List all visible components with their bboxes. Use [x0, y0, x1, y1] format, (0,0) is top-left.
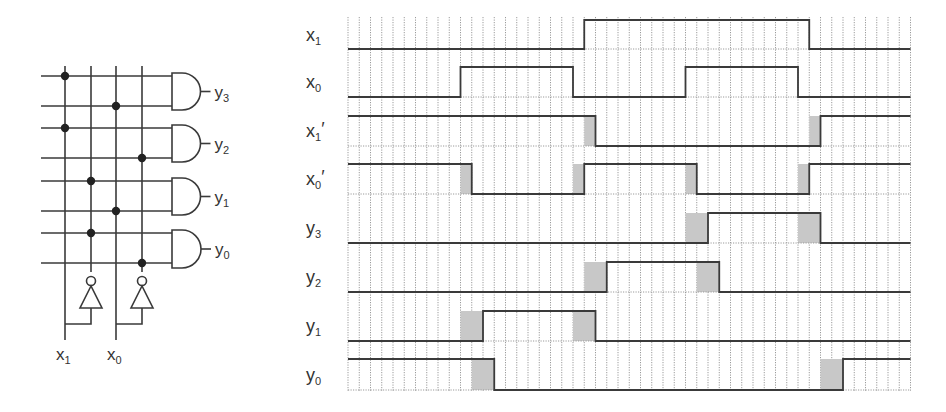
input-label-x1: x1	[56, 345, 71, 366]
decoder-circuit: x1x0y3y2y1y0	[41, 66, 230, 366]
and-gate-y0: y0	[172, 230, 230, 268]
and-gate-y3: y3	[172, 73, 229, 110]
propagation-delay-shade	[821, 359, 844, 390]
propagation-delay-shade	[798, 213, 821, 243]
propagation-delay-shade	[461, 311, 484, 341]
and-gate-y1: y1	[172, 178, 229, 215]
decoder-diagram: x1x0y3y2y1y0 x1x0x1′x0′y3y2y1y0	[0, 0, 946, 412]
and-gate-icon	[172, 73, 201, 110]
waveform-x1: x1	[306, 20, 911, 49]
junction-dot	[138, 259, 146, 267]
junction-dot	[112, 207, 120, 215]
output-label-y2: y2	[215, 135, 230, 156]
propagation-delay-shade	[584, 116, 595, 146]
propagation-delay-shade	[573, 311, 596, 341]
inverter-bubble-icon	[138, 277, 147, 286]
junction-dot	[61, 124, 69, 132]
timing-diagram: x1x0x1′x0′y3y2y1y0	[306, 17, 911, 391]
signal-label-x0-bar: x0′	[306, 167, 325, 191]
inverter-x0	[116, 277, 153, 325]
and-gate-y2: y2	[172, 125, 229, 162]
input-label-x0: x0	[107, 345, 122, 366]
signal-label-x1-bar: x1′	[306, 119, 325, 143]
and-gate-icon	[172, 230, 201, 268]
waveform-x1-bar: x1′	[306, 116, 911, 146]
inverter-x1	[65, 277, 102, 325]
and-gate-icon	[172, 178, 201, 215]
timing-grid	[348, 17, 911, 391]
and-gate-icon	[172, 125, 201, 162]
propagation-delay-shade	[573, 164, 584, 194]
signal-label-y2: y2	[306, 267, 321, 289]
signal-label-x1: x1	[306, 25, 321, 47]
inverter-bubble-icon	[87, 277, 96, 286]
junction-dot	[112, 102, 120, 110]
propagation-delay-shade	[809, 116, 820, 146]
propagation-delay-shade	[686, 164, 697, 194]
waveform-y2: y2	[306, 262, 911, 292]
inverter-triangle-icon	[80, 286, 102, 308]
junction-dot	[138, 154, 146, 162]
waveform-y3: y3	[306, 213, 911, 243]
propagation-delay-shade	[697, 262, 720, 292]
output-label-y0: y0	[215, 240, 230, 261]
output-label-y1: y1	[215, 188, 230, 209]
signal-label-y1: y1	[306, 316, 321, 338]
waveform-y0: y0	[306, 359, 911, 390]
signal-label-y0: y0	[306, 365, 321, 387]
junction-dot	[87, 177, 95, 185]
propagation-delay-shade	[686, 213, 709, 243]
junction-dot	[87, 229, 95, 237]
propagation-delay-shade	[472, 359, 495, 390]
propagation-delay-shade	[584, 262, 607, 292]
output-label-y3: y3	[215, 83, 230, 104]
inverter-input-wire	[65, 308, 91, 324]
inverter-triangle-icon	[131, 286, 153, 308]
signal-label-x0: x0	[306, 72, 321, 94]
waveform-y1: y1	[306, 311, 911, 341]
waveform-x0: x0	[306, 67, 911, 97]
junction-dot	[61, 72, 69, 80]
inverter-input-wire	[116, 308, 142, 324]
waveform-x0-bar: x0′	[306, 164, 911, 194]
signal-label-y3: y3	[306, 218, 321, 240]
propagation-delay-shade	[461, 164, 472, 194]
propagation-delay-shade	[798, 164, 809, 194]
